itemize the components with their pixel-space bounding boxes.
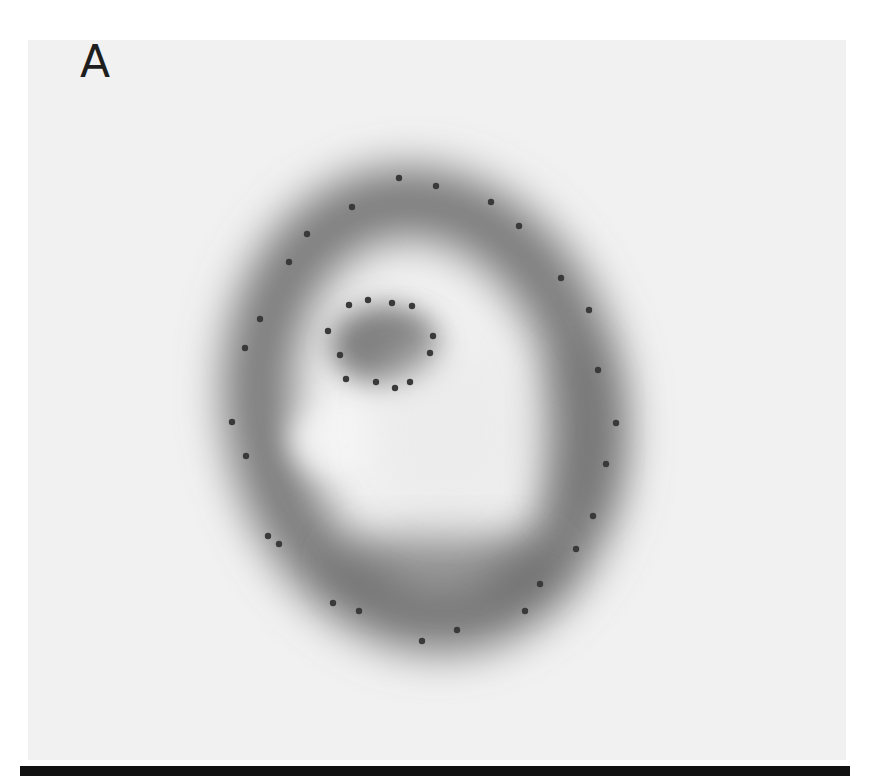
- outer-marker-dot: [276, 541, 282, 547]
- outer-marker-dot: [242, 345, 248, 351]
- inner-marker-dot: [337, 352, 343, 358]
- outer-marker-dot: [349, 204, 355, 210]
- panel-label: A: [80, 40, 110, 84]
- inner-marker-dot: [427, 350, 433, 356]
- ring-figure: [0, 0, 878, 776]
- outer-marker-dot: [595, 367, 601, 373]
- outer-marker-dot: [243, 453, 249, 459]
- inner-marker-dot: [430, 333, 436, 339]
- outer-marker-dot: [265, 533, 271, 539]
- outer-marker-dot: [573, 546, 579, 552]
- bottom-border-bar: [20, 766, 850, 776]
- outer-marker-dot: [419, 638, 425, 644]
- inner-marker-dot: [365, 297, 371, 303]
- outer-marker-dot: [558, 275, 564, 281]
- outer-marker-dot: [590, 513, 596, 519]
- outer-marker-dot: [433, 183, 439, 189]
- outer-marker-dot: [304, 231, 310, 237]
- inner-marker-dot: [407, 379, 413, 385]
- outer-marker-dot: [516, 223, 522, 229]
- outer-marker-dot: [229, 419, 235, 425]
- outer-marker-dot: [586, 307, 592, 313]
- outer-marker-dot: [286, 259, 292, 265]
- blurred-ring: [220, 170, 630, 649]
- inner-marker-dot: [409, 303, 415, 309]
- inner-marker-dot: [346, 302, 352, 308]
- outer-marker-dot: [488, 199, 494, 205]
- inner-marker-dot: [392, 385, 398, 391]
- inner-marker-dot: [373, 379, 379, 385]
- outer-marker-dot: [257, 316, 263, 322]
- inner-marker-dot: [325, 328, 331, 334]
- outer-marker-dot: [522, 608, 528, 614]
- outer-marker-dot: [356, 608, 362, 614]
- outer-marker-dot: [613, 420, 619, 426]
- outer-marker-dot: [330, 600, 336, 606]
- outer-marker-dot: [537, 581, 543, 587]
- inner-marker-dot: [343, 376, 349, 382]
- inner-marker-dot: [389, 300, 395, 306]
- outer-marker-dot: [454, 627, 460, 633]
- outer-marker-dot: [603, 461, 609, 467]
- outer-marker-dot: [396, 175, 402, 181]
